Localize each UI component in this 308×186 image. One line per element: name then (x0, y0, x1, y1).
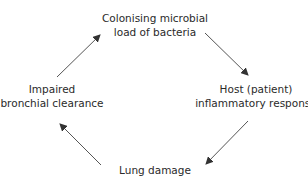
arrow-colonising-to-host (205, 33, 248, 75)
arrow-impaired-to-colonising (57, 35, 100, 77)
node-line: inflammatory response (195, 96, 308, 110)
node-line: Lung damage (119, 163, 191, 177)
node-line: Host (patient) (195, 82, 308, 96)
arrow-lung-to-impaired (60, 124, 101, 165)
node-impaired-bronchial-clearance: Impaired bronchial clearance (0, 82, 103, 110)
node-lung-damage: Lung damage (119, 163, 191, 177)
node-line: Colonising microbial (102, 11, 208, 25)
node-colonising-microbial-load: Colonising microbial load of bacteria (102, 11, 208, 39)
node-line: Impaired (0, 82, 103, 96)
arrow-host-to-lung (206, 121, 248, 164)
vicious-cycle-diagram: Colonising microbial load of bacteria Ho… (0, 0, 308, 186)
node-line: load of bacteria (102, 25, 208, 39)
node-host-inflammatory-response: Host (patient) inflammatory response (195, 82, 308, 110)
node-line: bronchial clearance (0, 96, 103, 110)
